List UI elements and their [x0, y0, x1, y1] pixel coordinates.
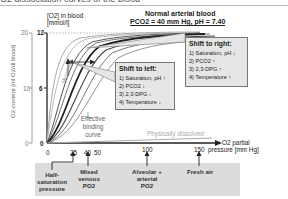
mixed-venous-line1: Mixed	[75, 168, 103, 175]
shift-left-box: Shift to left: 1) Saturation, pH ↑ 2) PC…	[115, 62, 175, 110]
shift-right-item-4: 4) Temperature ↑	[189, 73, 244, 81]
y-mmol-tick-6: 6	[39, 85, 43, 92]
alveolar-line2: arterial	[127, 175, 167, 182]
alveolar-line3: PO2	[127, 182, 167, 189]
x-axis-title-line2: pressure [mm Hg]	[208, 146, 259, 153]
y-mmol-tick-0: 0	[40, 140, 44, 147]
y-mmol-tick-12: 12	[37, 29, 44, 36]
x-tick-25: 25	[70, 149, 77, 156]
shift-right-item-1: 1) Saturation, pH ↓	[189, 49, 244, 57]
half-saturation-line3: pressure	[36, 185, 68, 192]
shift-right-title: Shift to right:	[189, 40, 244, 47]
half-saturation-label: Half- saturation pressure	[36, 171, 68, 192]
mixed-venous-line2: venous	[75, 175, 103, 182]
x-tick-40: 40	[84, 149, 91, 156]
x-tick-100: 100	[142, 146, 153, 153]
effective-binding-line3: curve	[79, 131, 107, 138]
fresh-air-label: Fresh air	[182, 168, 218, 175]
x-tick-0: 0	[46, 149, 50, 156]
alveolar-arterial-label: Alveolar + arterial PO2	[127, 168, 167, 189]
shift-left-item-1: 1) Saturation, pH ↑	[119, 74, 171, 82]
y-mmol-axis-title: [O2] in blood	[47, 12, 83, 19]
shift-right-item-2: 2) PCO2 ↑	[189, 57, 244, 65]
effective-binding-line2: binding	[77, 123, 109, 130]
shift-left-item-2: 2) PCO2 ↓	[119, 82, 171, 90]
y-ml-tick-0: 0	[25, 140, 29, 147]
alveolar-line1: Alveolar +	[127, 168, 167, 175]
y-ml-tick-20: 20	[21, 29, 28, 36]
normal-arterial-conditions: PCO2 = 40 mm Hg, pH = 7.40	[130, 18, 225, 26]
shift-right-item-3: 3) 2,3-DPG ↑	[189, 65, 244, 73]
y-ml-tick-10: 10	[23, 85, 30, 92]
shift-left-item-3: 3) 2,3-DPG ↓	[119, 90, 171, 98]
half-saturation-line1: Half-	[36, 171, 68, 178]
shift-left-item-4: 4) Temperature ↓	[119, 98, 171, 106]
half-saturation-line2: saturation	[36, 178, 68, 185]
shift-left-title: Shift to left:	[119, 65, 171, 72]
mixed-venous-label: Mixed venous PO2	[75, 168, 103, 189]
normal-arterial-label: Normal arterial blood	[145, 10, 215, 17]
physically-dissolved-label: Physically dissolved	[147, 130, 204, 137]
mixed-venous-line3: PO2	[75, 182, 103, 189]
x-tick-50: 50	[94, 149, 101, 156]
y-ml-axis-title: O2-content [ml O2/dl blood]	[10, 45, 16, 118]
y-mmol-axis-unit: [mmol/l]	[47, 19, 69, 26]
x-tick-150: 150	[194, 146, 205, 153]
shift-right-box: Shift to right: 1) Saturation, pH ↓ 2) P…	[185, 37, 248, 87]
effective-binding-line1: Effective	[73, 115, 113, 122]
x-axis-title-line1: O2 partial	[222, 139, 250, 146]
